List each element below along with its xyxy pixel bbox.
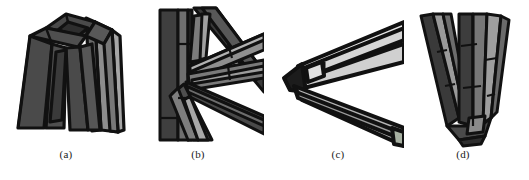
panel-d: (d) <box>397 0 529 180</box>
panel-c-artwork <box>272 0 404 150</box>
panel-d-caption: (d) <box>397 148 529 160</box>
panel-a: (a) <box>0 0 132 180</box>
panel-a-caption: (a) <box>0 148 132 160</box>
panel-c-caption: (c) <box>272 148 404 160</box>
panel-a-artwork <box>0 0 132 150</box>
panel-b: (b) <box>132 0 264 180</box>
figure-container: (a) <box>0 0 529 180</box>
panel-d-artwork <box>397 0 529 150</box>
panel-b-caption: (b) <box>132 148 264 160</box>
panel-c: (c) <box>272 0 404 180</box>
panel-b-artwork <box>132 0 264 150</box>
